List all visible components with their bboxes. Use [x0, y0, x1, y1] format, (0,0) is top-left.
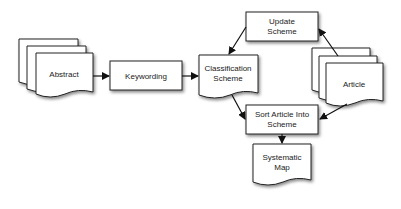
systematic-map-label-line2: Map [274, 163, 290, 172]
classification-scheme-label-line2: Scheme [213, 74, 243, 83]
classification-scheme-label-line1: Classification [204, 64, 251, 73]
keywording-label: Keywording [125, 72, 167, 81]
abstract-node [19, 39, 93, 97]
sort-article-label-line2: Scheme [267, 120, 297, 129]
abstract-label: Abstract [49, 70, 79, 79]
update-scheme-label-line2: Scheme [267, 27, 297, 36]
article-node [312, 48, 383, 106]
article-label: Article [343, 80, 366, 89]
edge-classification-to-sort [232, 95, 245, 119]
systematic-map-label-line1: Systematic [262, 153, 301, 162]
sort-article-label-line1: Sort Article Into [255, 110, 310, 119]
edge-article-to-sort [320, 104, 347, 119]
flowchart-canvas: Abstract Keywording Classification Schem… [0, 0, 401, 209]
edge-update-to-classification [229, 27, 246, 54]
update-scheme-label-line1: Update [269, 17, 295, 26]
